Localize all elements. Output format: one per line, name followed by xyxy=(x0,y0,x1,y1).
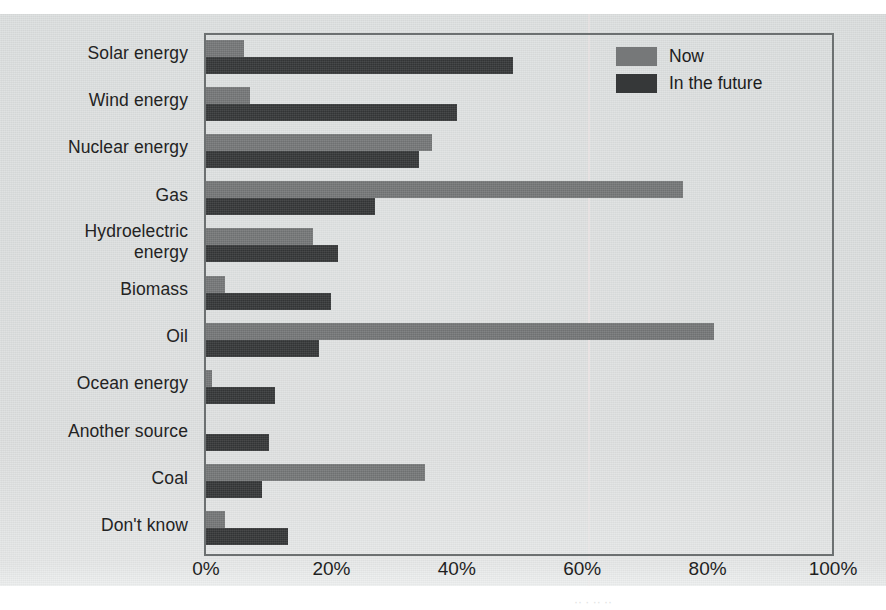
bar-chart: Solar energyWind energyNuclear energyGas… xyxy=(0,0,886,610)
category-label: Hydroelectric energy xyxy=(3,221,188,263)
bar xyxy=(206,434,269,451)
bar xyxy=(206,228,313,245)
bar xyxy=(206,528,288,545)
bar xyxy=(206,511,225,528)
x-tick-label: 80% xyxy=(689,558,727,580)
category-label: Don't know xyxy=(3,515,188,536)
bar xyxy=(206,57,513,74)
category-label: Solar energy xyxy=(3,43,188,64)
bar xyxy=(206,340,319,357)
bar xyxy=(206,181,683,198)
legend-item: In the future xyxy=(616,71,831,95)
legend-label: In the future xyxy=(669,73,762,94)
bar xyxy=(206,276,225,293)
x-tick-label: 40% xyxy=(438,558,476,580)
bar xyxy=(206,293,331,310)
legend-swatch-future xyxy=(616,74,657,93)
bars-layer xyxy=(206,35,833,554)
category-label: Wind energy xyxy=(3,90,188,111)
legend-swatch-now xyxy=(616,47,657,66)
bar xyxy=(206,387,275,404)
bar xyxy=(206,151,419,168)
legend-item: Now xyxy=(616,44,831,68)
bar xyxy=(206,134,432,151)
bar xyxy=(206,198,375,215)
bar xyxy=(206,370,212,387)
bar xyxy=(206,104,457,121)
chart-legend: NowIn the future xyxy=(616,44,831,98)
category-label: Coal xyxy=(3,468,188,489)
category-label: Biomass xyxy=(3,279,188,300)
x-axis-tick-labels: 0%20%40%60%80%100% xyxy=(204,558,834,588)
bar xyxy=(206,245,338,262)
x-tick-label: 100% xyxy=(809,558,858,580)
category-label: Another source xyxy=(3,421,188,442)
x-tick-label: 0% xyxy=(192,558,219,580)
bar xyxy=(206,323,714,340)
x-tick-label: 60% xyxy=(563,558,601,580)
category-label: Ocean energy xyxy=(3,373,188,394)
bar xyxy=(206,40,244,57)
category-label: Nuclear energy xyxy=(3,137,188,158)
bar xyxy=(206,464,425,481)
caption-fragment: ·· · ·· ·· xyxy=(574,595,874,607)
category-axis: Solar energyWind energyNuclear energyGas… xyxy=(8,33,198,556)
x-tick-label: 20% xyxy=(312,558,350,580)
legend-label: Now xyxy=(669,46,704,67)
category-label: Oil xyxy=(3,326,188,347)
bar xyxy=(206,87,250,104)
category-label: Gas xyxy=(3,185,188,206)
bar xyxy=(206,481,262,498)
